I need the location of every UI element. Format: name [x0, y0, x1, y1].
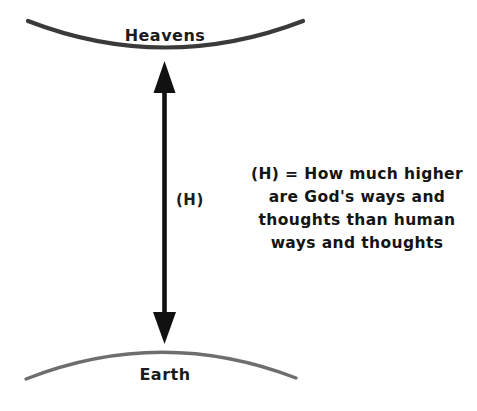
earth-label: Earth: [0, 365, 330, 384]
legend-line-1: (H) = How much higher: [248, 163, 466, 186]
legend-line-3: thoughts than human: [248, 209, 466, 232]
arrow-h-label: (H): [176, 191, 204, 209]
legend-text-block: (H) = How much higher are God's ways and…: [248, 163, 466, 255]
arrow-head-up-icon: [154, 61, 176, 93]
legend-line-4: ways and thoughts: [248, 232, 466, 255]
heavens-label: Heavens: [0, 26, 330, 45]
legend-line-2: are God's ways and: [248, 186, 466, 209]
arrow-head-down-icon: [153, 312, 176, 344]
diagram-canvas: Heavens Earth (H) (H) = How much higher …: [0, 0, 477, 411]
